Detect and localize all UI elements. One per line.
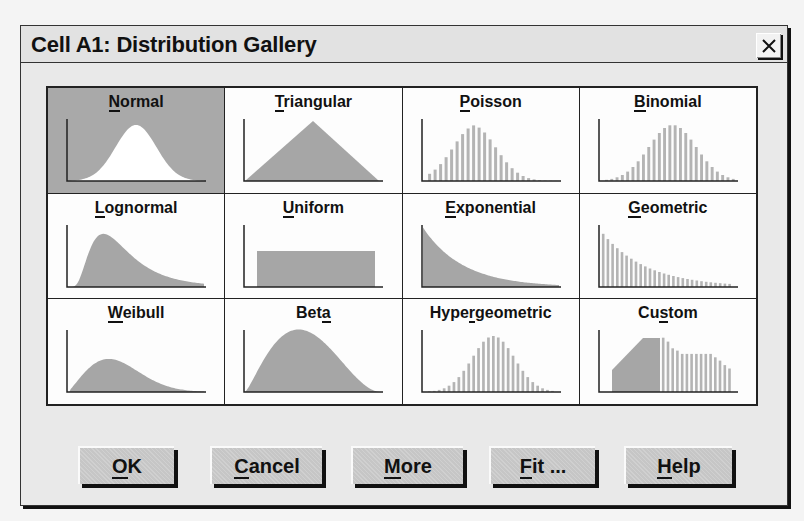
gallery-item-label: Geometric [580, 199, 756, 217]
gallery-item-weibull[interactable]: Weibull [48, 299, 224, 404]
normal-distribution-icon [66, 118, 208, 182]
gallery-item-label: Weibull [48, 304, 224, 322]
gallery-item-label: Uniform [225, 199, 401, 217]
gallery-item-geometric[interactable]: Geometric [580, 194, 756, 299]
gallery-item-label: Lognormal [48, 199, 224, 217]
hypergeometric-distribution-icon [421, 329, 563, 393]
gallery-item-uniform[interactable]: Uniform [225, 194, 401, 299]
title-bar[interactable]: Cell A1: Distribution Gallery [21, 26, 787, 63]
help-button[interactable]: Help [624, 446, 732, 484]
gallery-item-triangular[interactable]: Triangular [225, 88, 401, 193]
button-label: Fit ... [520, 455, 567, 478]
distribution-grid: NormalTriangularPoissonBinomialLognormal… [46, 86, 758, 406]
more-button[interactable]: More [351, 446, 463, 484]
beta-distribution-icon [243, 329, 385, 393]
button-label: Cancel [234, 455, 300, 478]
close-x-icon [761, 38, 777, 54]
weibull-distribution-icon [66, 329, 208, 393]
gallery-item-label: Beta [225, 304, 401, 322]
gallery-item-lognormal[interactable]: Lognormal [48, 194, 224, 299]
gallery-item-normal[interactable]: Normal [48, 88, 224, 193]
gallery-item-label: Normal [48, 93, 224, 111]
dialog-title: Cell A1: Distribution Gallery [31, 32, 317, 58]
triangular-distribution-icon [243, 118, 385, 182]
gallery-item-label: Hypergeometric [403, 304, 579, 322]
geometric-distribution-icon [598, 224, 740, 288]
gallery-item-label: Exponential [403, 199, 579, 217]
poisson-distribution-icon [421, 118, 563, 182]
button-label: OK [112, 455, 142, 478]
gallery-item-label: Triangular [225, 93, 401, 111]
gallery-item-beta[interactable]: Beta [225, 299, 401, 404]
binomial-distribution-icon [598, 118, 740, 182]
gallery-item-label: Poisson [403, 93, 579, 111]
custom-distribution-icon [598, 329, 740, 393]
gallery-item-label: Custom [580, 304, 756, 322]
gallery-item-custom[interactable]: Custom [580, 299, 756, 404]
distribution-gallery-dialog: Cell A1: Distribution Gallery NormalTria… [20, 25, 788, 506]
gallery-item-exponential[interactable]: Exponential [403, 194, 579, 299]
uniform-distribution-icon [243, 224, 385, 288]
cancel-button[interactable]: Cancel [210, 446, 322, 484]
fit-button[interactable]: Fit ... [489, 446, 595, 484]
lognormal-distribution-icon [66, 224, 208, 288]
button-label: More [384, 455, 432, 478]
gallery-item-label: Binomial [580, 93, 756, 111]
gallery-item-binomial[interactable]: Binomial [580, 88, 756, 193]
gallery-item-hypergeometric[interactable]: Hypergeometric [403, 299, 579, 404]
close-button[interactable] [756, 33, 781, 58]
button-label: Help [657, 455, 700, 478]
exponential-distribution-icon [421, 224, 563, 288]
gallery-item-poisson[interactable]: Poisson [403, 88, 579, 193]
ok-button[interactable]: OK [78, 446, 174, 484]
